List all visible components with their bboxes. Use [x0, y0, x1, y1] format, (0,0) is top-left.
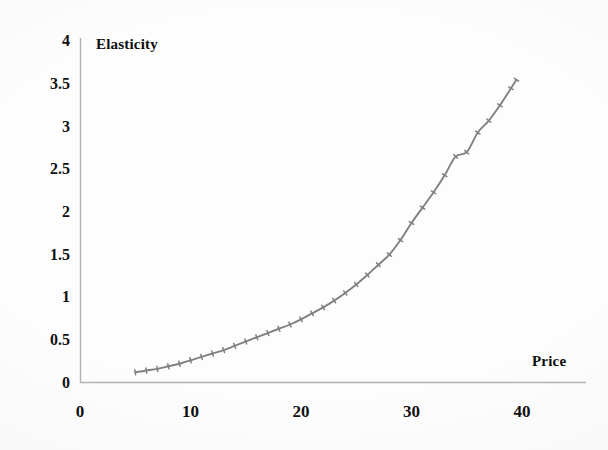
data-point-marker — [146, 368, 147, 373]
data-point-marker — [212, 351, 214, 356]
x-axis-tick-label: 20 — [293, 403, 310, 420]
data-point-marker — [234, 343, 236, 348]
x-axis-title: Price — [532, 353, 566, 370]
y-axis-tick-label: 0.5 — [50, 332, 70, 348]
y-axis-tick-label: 2 — [62, 204, 70, 220]
y-axis-tick-label: 1.5 — [50, 247, 70, 263]
y-axis-tick-label: 0 — [62, 375, 70, 391]
data-point-marker — [157, 366, 158, 371]
data-point-marker — [256, 335, 258, 340]
x-axis-tick-label: 30 — [403, 403, 420, 420]
data-point-marker — [223, 348, 225, 353]
y-axis-tick-label: 4 — [62, 33, 70, 49]
elasticity-data-markers — [135, 78, 519, 375]
data-point-marker — [245, 339, 247, 344]
data-point-marker — [135, 370, 136, 375]
x-axis-tick-label: 10 — [182, 403, 199, 420]
data-point-marker — [278, 326, 280, 331]
y-axis-tick-label: 3.5 — [50, 76, 70, 92]
chart-figure: 00.511.522.533.54 010203040 Elasticity P… — [0, 0, 608, 450]
data-point-marker — [168, 364, 169, 369]
y-axis-tick-label: 3 — [62, 119, 70, 135]
data-point-marker — [190, 358, 192, 363]
data-point-marker — [179, 361, 180, 366]
y-axis-title: Elasticity — [96, 36, 158, 53]
data-point-marker — [267, 331, 269, 336]
x-axis-tick-label: 40 — [514, 403, 531, 420]
elasticity-curve — [135, 80, 516, 373]
plot-area — [0, 0, 608, 450]
data-point-marker — [300, 317, 302, 322]
y-axis-tick-label: 2.5 — [50, 161, 70, 177]
data-point-marker — [201, 354, 203, 359]
data-point-marker — [289, 322, 291, 327]
y-axis-tick-label: 1 — [62, 289, 70, 305]
x-axis-tick-label: 0 — [76, 403, 85, 420]
